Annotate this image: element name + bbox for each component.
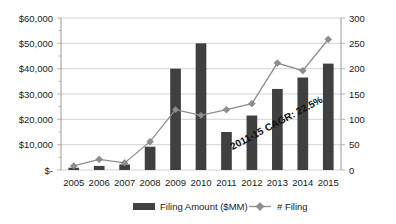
x-label-2015: 2015	[318, 177, 339, 188]
chart-svg: $60,000 $50,000 $40,000 $30,000 $20,000 …	[0, 0, 396, 224]
legend-label-filing-amount: Filing Amount ($MM)	[160, 201, 248, 212]
x-label-2011: 2011	[216, 177, 236, 188]
bar-2008	[145, 147, 156, 170]
chart-container: $60,000 $50,000 $40,000 $30,000 $20,000 …	[0, 0, 396, 224]
right-axis: 300 250 200 150 100 50 0	[341, 13, 365, 176]
marker-2013	[274, 60, 281, 67]
left-tick-label-50000: $50,000	[19, 38, 53, 49]
x-axis-labels: 2005200620072008200920102011201220132014…	[63, 177, 339, 188]
chart-legend: Filing Amount ($MM) # Filing	[133, 201, 308, 212]
right-tick-label-100: 100	[349, 114, 365, 125]
marker-2006	[96, 156, 103, 163]
left-tick-label-20000: $20,000	[19, 114, 53, 125]
right-tick-label-150: 150	[349, 89, 365, 100]
right-tick-label-300: 300	[349, 13, 365, 24]
right-tick-label-200: 200	[349, 63, 365, 74]
marker-2011	[223, 106, 230, 113]
legend-swatch-filing-amount	[133, 203, 155, 210]
x-label-2010: 2010	[190, 177, 211, 188]
left-tick-label-40000: $40,000	[19, 63, 53, 74]
right-tick-label-0: 0	[349, 165, 354, 176]
left-axis: $60,000 $50,000 $40,000 $30,000 $20,000 …	[19, 13, 61, 176]
bar-2010	[196, 43, 207, 170]
bar-2015	[323, 64, 334, 170]
legend-diamond-icon	[256, 203, 264, 211]
x-label-2005: 2005	[63, 177, 84, 188]
x-label-2009: 2009	[165, 177, 186, 188]
left-tick-label-60000: $60,000	[19, 13, 53, 24]
left-tick-label-0: $-	[45, 165, 53, 176]
x-label-2007: 2007	[114, 177, 135, 188]
bar-2009	[170, 69, 181, 170]
bar-2006	[94, 166, 105, 170]
x-label-2014: 2014	[292, 177, 313, 188]
left-tick-label-30000: $30,000	[19, 89, 53, 100]
x-label-2008: 2008	[140, 177, 161, 188]
left-tick-label-10000: $10,000	[19, 139, 53, 150]
marker-2012	[249, 100, 256, 107]
bar-2014	[297, 78, 308, 170]
bar-2011	[221, 132, 232, 170]
right-tick-label-250: 250	[349, 38, 365, 49]
right-tick-label-50: 50	[349, 139, 360, 150]
x-label-2013: 2013	[267, 177, 288, 188]
legend-label-filing-count: # Filing	[277, 201, 308, 212]
x-label-2006: 2006	[89, 177, 110, 188]
x-label-2012: 2012	[241, 177, 262, 188]
